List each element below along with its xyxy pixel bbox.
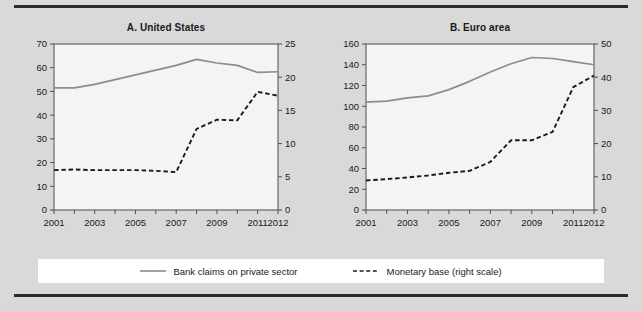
figure-canvas: A. United States 01020304050607005101520… (0, 0, 642, 311)
y2-tick-label: 30 (601, 105, 612, 116)
x-tick-label: 2009 (206, 217, 227, 228)
x-tick-label: 2012 (267, 217, 288, 228)
y-tick-label: 120 (343, 80, 359, 91)
x-tick-label: 2009 (521, 217, 542, 228)
x-tick-label: 2001 (355, 217, 376, 228)
y2-tick-label: 5 (285, 171, 290, 182)
x-tick-label: 2007 (480, 217, 501, 228)
y-tick-label: 50 (36, 86, 47, 97)
solid-line-swatch (140, 267, 166, 275)
y-tick-label: 0 (42, 204, 47, 215)
legend-item-bank-claims: Bank claims on private sector (140, 266, 297, 277)
y2-tick-label: 10 (601, 171, 612, 182)
y-tick-label: 70 (36, 38, 47, 49)
top-rule (14, 5, 628, 8)
x-tick-label: 2011 (563, 217, 583, 228)
plot-background (366, 44, 594, 210)
panel-a-title: A. United States (18, 22, 314, 33)
y-tick-label: 40 (36, 110, 47, 121)
y-tick-label: 80 (348, 121, 359, 132)
y2-tick-label: 10 (285, 138, 296, 149)
y-tick-label: 100 (343, 101, 359, 112)
y-tick-label: 160 (343, 38, 359, 49)
y2-tick-label: 40 (601, 72, 612, 83)
y-tick-label: 30 (36, 133, 47, 144)
y-tick-label: 10 (36, 181, 47, 192)
x-tick-label: 2005 (125, 217, 146, 228)
y-tick-label: 40 (348, 163, 359, 174)
panel-a-plot-area: 0102030405060700510152025200120032005200… (18, 38, 314, 252)
bottom-rule (14, 294, 628, 297)
y-tick-label: 0 (354, 204, 359, 215)
panel-b-svg: 0204060801001201401600102030405020012003… (330, 38, 630, 252)
y2-tick-label: 25 (285, 38, 296, 49)
legend-label-bank-claims: Bank claims on private sector (173, 266, 297, 277)
plot-background (54, 44, 278, 210)
x-tick-label: 2007 (166, 217, 187, 228)
y-tick-label: 20 (36, 157, 47, 168)
chart-panel-a: A. United States 01020304050607005101520… (18, 22, 314, 252)
chart-legend: Bank claims on private sector Monetary b… (38, 259, 604, 283)
y2-tick-label: 50 (601, 38, 612, 49)
y-tick-label: 20 (348, 184, 359, 195)
chart-panel-b: B. Euro area 020406080100120140160010203… (330, 22, 630, 252)
legend-item-monetary-base: Monetary base (right scale) (353, 266, 501, 277)
panel-a-svg: 0102030405060700510152025200120032005200… (18, 38, 314, 252)
y-tick-label: 140 (343, 59, 359, 70)
x-tick-label: 2003 (397, 217, 418, 228)
x-tick-label: 2011 (247, 217, 267, 228)
y2-tick-label: 20 (285, 72, 296, 83)
x-tick-label: 2003 (84, 217, 105, 228)
legend-label-monetary-base: Monetary base (right scale) (386, 266, 501, 277)
x-tick-label: 2005 (438, 217, 459, 228)
y2-tick-label: 0 (601, 204, 606, 215)
x-tick-label: 2001 (43, 217, 64, 228)
y-tick-label: 60 (348, 142, 359, 153)
y-tick-label: 60 (36, 62, 47, 73)
y2-tick-label: 0 (285, 204, 290, 215)
x-tick-label: 2012 (583, 217, 604, 228)
panel-b-title: B. Euro area (330, 22, 630, 33)
y2-tick-label: 20 (601, 138, 612, 149)
dashed-line-swatch (353, 267, 379, 275)
panel-b-plot-area: 0204060801001201401600102030405020012003… (330, 38, 630, 252)
y2-tick-label: 15 (285, 105, 296, 116)
